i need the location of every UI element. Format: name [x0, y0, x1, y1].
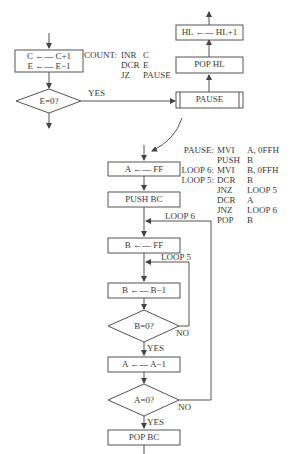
- code-row: JZ PAUSE: [84, 70, 171, 80]
- pause-subroutine-box: PAUSE: [176, 94, 243, 104]
- count-box: C ←— C+1 E ←— E−1: [15, 51, 83, 71]
- code-row: DCRA: [170, 195, 279, 205]
- b-ff-box: B ←— FF: [108, 240, 180, 250]
- push-bc-box: PUSH BC: [108, 194, 180, 204]
- a-decision-no: NO: [178, 402, 191, 412]
- code-row: JNZLOOP 5: [170, 185, 279, 195]
- code-row: LOOP 5:DCRB: [170, 175, 279, 185]
- a-decrement-box: A ←— A−1: [108, 359, 180, 369]
- a-decision-yes: YES: [147, 417, 164, 427]
- count-box-line1: C ←— C+1: [15, 51, 83, 61]
- count-code: COUNT: INR C DCR E JZ PAUSE: [84, 50, 171, 80]
- code-row: COUNT: INR C: [84, 50, 171, 60]
- code-row: LOOP 6:MVIB, 0FFH: [170, 165, 279, 175]
- code-row: PAUSE:MVIA, 0FFH: [170, 145, 279, 155]
- e-decision-yes: YES: [88, 88, 105, 98]
- code-row: DCR E: [84, 60, 171, 70]
- a-ff-box: A ←— FF: [108, 164, 180, 174]
- b-decision-yes: YES: [147, 343, 164, 353]
- code-row: PUSHB: [170, 155, 279, 165]
- loop5-label: LOOP 5: [161, 252, 191, 262]
- count-box-line2: E ←— E−1: [15, 61, 83, 71]
- pop-bc-box: POP BC: [108, 432, 180, 442]
- b-decision-label: B=0?: [108, 321, 180, 331]
- e-decision-label: E=0?: [16, 96, 82, 106]
- b-decrement-box: B ←— B−1: [108, 285, 180, 295]
- b-decision-no: NO: [176, 328, 189, 338]
- pop-hl-box: POP HL: [176, 59, 243, 69]
- a-decision-label: A=0?: [108, 395, 180, 405]
- loop6-label: LOOP 6: [165, 211, 195, 221]
- hl-increment-box: HL ←— HL+1: [176, 27, 243, 37]
